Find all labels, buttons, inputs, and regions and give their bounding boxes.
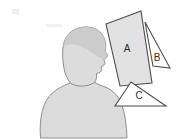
diagram-canvas: A B C	[0, 0, 182, 139]
diagram-svg: A B C	[0, 0, 182, 139]
faint-smudge-center	[46, 24, 62, 27]
shape-c-label: C	[135, 90, 142, 101]
shape-b-label: B	[154, 52, 161, 63]
shape-a-label: A	[124, 43, 131, 54]
faint-corner-mark	[12, 9, 19, 14]
